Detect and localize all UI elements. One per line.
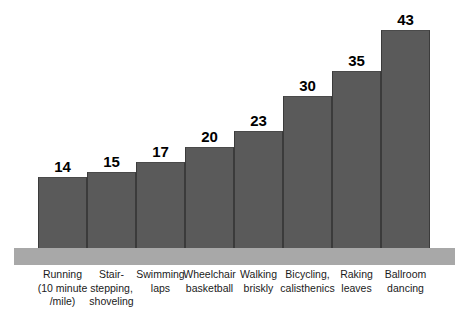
bar-column[interactable]: 20 [185,12,234,248]
category-label: Ballroom dancing [378,268,433,295]
bar-value-label: 17 [136,144,185,160]
bar-rect[interactable] [234,131,283,248]
bar-value-label: 15 [87,154,136,170]
bar-value-label: 43 [381,12,430,28]
bar-column[interactable]: 17 [136,12,185,248]
bar-rect[interactable] [185,147,234,248]
category-label-line: Walking [234,268,283,282]
bar-column[interactable]: 35 [332,12,381,248]
bar-value-label: 23 [234,113,283,129]
bar-value-label: 20 [185,129,234,145]
bar-column[interactable]: 30 [283,12,332,248]
category-label: Bicycling, calisthenics [277,268,338,295]
baseline-plinth [14,248,455,265]
category-label-line: Wheelchair [181,268,238,282]
category-label: Raking leaves [334,268,379,295]
bar-rect[interactable] [38,177,87,248]
bar-rect[interactable] [87,172,136,248]
category-label-line: dancing [378,282,433,296]
bar-rect[interactable] [283,96,332,248]
bar-column[interactable]: 23 [234,12,283,248]
bar-chart: 14 15 17 20 23 30 35 [0,0,469,328]
bar-value-label: 35 [332,53,381,69]
category-labels: Running (10 minute /mile) Stair- steppin… [38,268,430,326]
category-label-line: laps [133,282,188,296]
bar-column[interactable]: 43 [381,12,430,248]
category-label-line: basketball [181,282,238,296]
category-label-line: Swimming [133,268,188,282]
category-label: Wheelchair basketball [181,268,238,295]
category-label-line: Bicycling, [277,268,338,282]
category-label: Walking briskly [234,268,283,295]
category-label-line: briskly [234,282,283,296]
bar-value-label: 30 [283,78,332,94]
category-label-line: Raking [334,268,379,282]
category-label-line: calisthenics [277,282,338,296]
category-label: Swimming laps [133,268,188,295]
bar-rect[interactable] [381,30,430,248]
category-label-line: shoveling [82,295,141,309]
bar-column[interactable]: 14 [38,12,87,248]
plot-area: 14 15 17 20 23 30 35 [38,12,430,248]
bar-rect[interactable] [332,71,381,248]
bar-column[interactable]: 15 [87,12,136,248]
category-label-line: Ballroom [378,268,433,282]
bar-value-label: 14 [38,159,87,175]
bar-rect[interactable] [136,162,185,248]
category-label-line: leaves [334,282,379,296]
